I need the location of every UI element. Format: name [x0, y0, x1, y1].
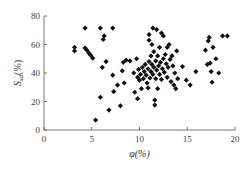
data-point-diamond: [145, 80, 150, 85]
data-point-diamond: [98, 26, 103, 31]
data-point-diamond: [134, 56, 139, 61]
data-point-diamond: [82, 26, 87, 31]
data-point-diamond: [135, 96, 140, 101]
data-point-diamond: [180, 64, 185, 69]
plot-area: 020406080 05101520: [31, 11, 240, 144]
data-point-diamond: [132, 90, 137, 95]
y-axis-label: Ssd(%): [12, 60, 25, 86]
data-point-diamond: [153, 76, 158, 81]
x-tick-label: 10: [135, 134, 145, 144]
data-point-diamond: [159, 77, 164, 82]
data-point-diamond: [103, 59, 108, 64]
data-point-diamond: [120, 68, 125, 73]
data-points: [72, 26, 230, 123]
data-point-diamond: [100, 65, 105, 70]
data-point-diamond: [72, 48, 77, 53]
data-point-diamond: [206, 38, 211, 43]
data-point-diamond: [220, 33, 225, 38]
data-point-diamond: [155, 53, 160, 58]
data-point-diamond: [127, 58, 132, 63]
y-ticks: 020406080: [31, 11, 47, 135]
x-ticks: 05101520: [42, 127, 240, 144]
x-tick-label: 20: [231, 134, 241, 144]
data-point-diamond: [139, 86, 144, 91]
data-point-diamond: [210, 45, 215, 50]
data-point-diamond: [106, 107, 111, 112]
scatter-chart: 020406080 05101520 φ(%) Ssd(%): [0, 0, 251, 171]
data-point-diamond: [118, 103, 123, 108]
data-point-diamond: [93, 117, 98, 122]
data-point-diamond: [149, 42, 154, 47]
data-point-diamond: [188, 83, 193, 88]
y-tick-label: 60: [31, 40, 41, 50]
data-point-diamond: [155, 86, 160, 91]
y-tick-label: 20: [31, 97, 41, 107]
data-point-diamond: [174, 48, 179, 53]
data-point-diamond: [184, 78, 189, 83]
data-point-diamond: [209, 80, 214, 85]
data-point-diamond: [145, 85, 150, 90]
data-point-diamond: [213, 56, 218, 61]
data-point-diamond: [157, 72, 162, 77]
data-point-diamond: [168, 79, 173, 84]
data-point-diamond: [203, 48, 208, 53]
data-point-diamond: [165, 75, 170, 80]
data-point-diamond: [225, 33, 230, 38]
y-axis-label-unit: (%): [12, 60, 24, 75]
x-tick-label: 5: [90, 134, 95, 144]
data-point-diamond: [152, 97, 157, 102]
data-point-diamond: [175, 76, 180, 81]
data-point-diamond: [122, 80, 127, 85]
x-tick-label: 15: [183, 134, 193, 144]
x-tick-label: 0: [42, 134, 47, 144]
data-point-diamond: [152, 102, 157, 107]
data-point-diamond: [146, 38, 151, 43]
data-point-diamond: [172, 70, 177, 75]
data-point-diamond: [131, 70, 136, 75]
data-point-diamond: [115, 83, 120, 88]
data-point-diamond: [147, 75, 152, 80]
data-point-diamond: [110, 73, 115, 78]
y-tick-label: 0: [36, 125, 41, 135]
y-tick-label: 40: [31, 68, 41, 78]
data-point-diamond: [101, 37, 106, 42]
data-point-diamond: [153, 58, 158, 63]
data-point-diamond: [170, 63, 175, 68]
data-point-diamond: [98, 95, 103, 100]
y-tick-label: 80: [31, 11, 41, 21]
data-point-diamond: [110, 26, 115, 31]
data-point-diamond: [209, 69, 214, 74]
data-point-diamond: [193, 69, 198, 74]
x-axis-label: φ(%): [129, 148, 150, 160]
data-point-diamond: [146, 32, 151, 37]
data-point-diamond: [111, 89, 116, 94]
data-point-diamond: [151, 49, 156, 54]
data-point-diamond: [102, 33, 107, 38]
data-point-diamond: [207, 35, 212, 40]
data-point-diamond: [148, 53, 153, 58]
data-point-diamond: [157, 45, 162, 50]
data-point-diamond: [216, 70, 221, 75]
